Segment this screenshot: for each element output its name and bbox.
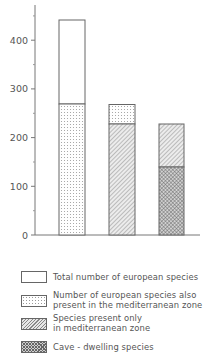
legend-item-also-mediterranean: Number of european species also present …: [21, 290, 202, 310]
legend-label: Species present only in mediterranean zo…: [53, 313, 150, 333]
legend-label: Cave - dwelling species: [53, 342, 154, 352]
legend-label: Number of european species also present …: [53, 290, 202, 310]
legend-item-only-mediterranean: Species present only in mediterranean zo…: [21, 313, 150, 333]
legend-swatch-dots: [21, 295, 47, 307]
legend-swatch-hatch: [21, 318, 47, 330]
legend-item-total: Total number of european species: [21, 270, 198, 283]
legend: Total number of european species Number …: [0, 0, 220, 363]
legend-swatch-crosshatch: [21, 341, 47, 353]
legend-label: Total number of european species: [53, 272, 198, 282]
legend-item-cave-dwelling: Cave - dwelling species: [21, 340, 154, 353]
legend-swatch-blank: [21, 271, 47, 283]
